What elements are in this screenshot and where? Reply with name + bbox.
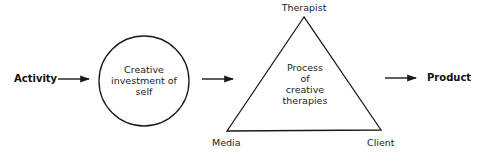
triangle-line-2: of — [270, 73, 340, 84]
client-vertex-label: Client — [367, 137, 395, 148]
media-vertex-label: Media — [212, 137, 241, 148]
product-label: Product — [427, 72, 471, 83]
triangle-line-1: Process — [270, 62, 340, 73]
therapist-vertex-label: Therapist — [274, 2, 334, 13]
circle-line-2: investment of — [104, 75, 184, 86]
triangle-center-text: Process of creative therapies — [270, 62, 340, 106]
triangle-line-4: therapies — [270, 95, 340, 106]
triangle-line-3: creative — [270, 84, 340, 95]
diagram-canvas — [0, 0, 477, 154]
circle-text: Creative investment of self — [104, 64, 184, 97]
circle-line-1: Creative — [104, 64, 184, 75]
activity-label: Activity — [14, 73, 57, 84]
circle-line-3: self — [104, 86, 184, 97]
